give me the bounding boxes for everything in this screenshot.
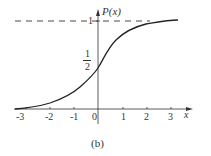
x-ticks [26, 21, 171, 109]
x-tick-neg2: -2 [45, 112, 53, 122]
half-denominator: 2 [85, 62, 90, 72]
x-tick-neg3: -3 [16, 112, 24, 122]
x-axis-label: x [184, 110, 188, 120]
y-axis-label: P(x) [102, 6, 121, 17]
x-tick-2: 2 [144, 112, 149, 122]
sigmoid-curve [15, 20, 178, 109]
x-tick-neg1: -1 [70, 112, 78, 122]
x-tick-zero: 0 [92, 112, 97, 122]
x-tick-1: 1 [121, 112, 126, 122]
figure-caption: (b) [91, 138, 104, 149]
chart-plot [0, 0, 211, 156]
x-tick-3: 3 [168, 112, 173, 122]
half-numerator: 1 [85, 49, 90, 59]
y-axis-arrow-icon [96, 9, 100, 16]
y-tick-one: 1 [88, 16, 93, 26]
